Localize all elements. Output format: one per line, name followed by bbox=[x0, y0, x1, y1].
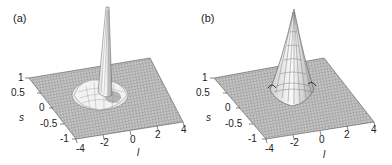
panel-a: (a) 1 0.5 0 -0.5 -1 s -4 -2 0 2 4 l bbox=[0, 0, 196, 165]
y-tick-label: -0.5 bbox=[225, 119, 242, 129]
y-tick-label: 1 bbox=[202, 73, 208, 83]
x-tick-label: 4 bbox=[371, 125, 377, 135]
panel-b: (b) 1 0.5 0 -0.5 -1 s -4 -2 0 2 4 l bbox=[196, 0, 392, 165]
y-tick-label: 0 bbox=[225, 103, 231, 113]
x-tick-label: -4 bbox=[76, 144, 85, 154]
x-tick-label: -4 bbox=[265, 144, 274, 154]
x-tick-label: 2 bbox=[155, 130, 161, 140]
x-tick-label: -2 bbox=[290, 138, 299, 148]
y-tick-label: -1 bbox=[60, 134, 69, 144]
x-tick-label: 0 bbox=[319, 135, 325, 145]
x-axis-title: l bbox=[323, 150, 325, 160]
x-tick-label: 2 bbox=[344, 130, 350, 140]
x-tick-label: 4 bbox=[181, 125, 187, 135]
surface-plot-a bbox=[0, 0, 196, 165]
y-tick-label: 0 bbox=[39, 103, 45, 113]
x-tick-label: -2 bbox=[100, 138, 109, 148]
panel-label-a: (a) bbox=[13, 13, 26, 24]
y-axis-title: s bbox=[19, 113, 24, 123]
panel-label-b: (b) bbox=[201, 13, 214, 24]
y-tick-label: -1 bbox=[248, 134, 257, 144]
y-tick-label: -0.5 bbox=[40, 119, 57, 129]
x-axis-title: l bbox=[137, 148, 139, 158]
y-axis-title: s bbox=[206, 113, 211, 123]
y-tick-label: 0.5 bbox=[196, 88, 210, 98]
x-tick-label: 0 bbox=[130, 135, 136, 145]
y-tick-label: 1 bbox=[18, 73, 24, 83]
y-tick-label: 0.5 bbox=[11, 88, 25, 98]
